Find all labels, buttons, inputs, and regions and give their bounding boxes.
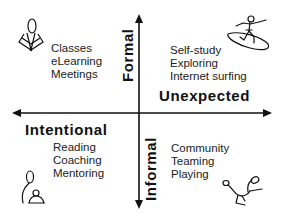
list-item: Community (171, 142, 229, 155)
playing-figure-icon (0, 0, 285, 219)
list-item: Teaming (171, 155, 229, 168)
list-item: Playing (171, 168, 229, 181)
quadrant-informal-unexpected-list: Community Teaming Playing (171, 142, 229, 182)
learning-quadrant-diagram: Formal Informal Unexpected Intentional C… (0, 0, 285, 219)
